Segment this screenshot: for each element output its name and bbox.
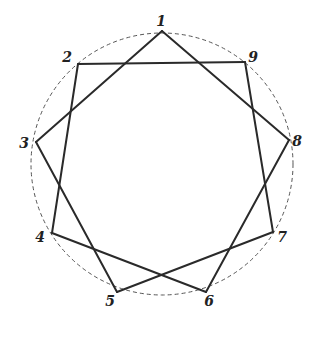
vertex-label-2: 2 <box>61 49 72 65</box>
edge-3-5 <box>36 142 117 292</box>
vertex-label-5: 5 <box>105 293 115 309</box>
vertex-label-9: 9 <box>248 49 258 65</box>
star-polygon-diagram: 123456789 <box>0 0 327 338</box>
vertex-label-6: 6 <box>204 293 214 309</box>
vertex-label-1: 1 <box>156 13 166 29</box>
edge-8-1 <box>162 31 289 140</box>
vertex-label-4: 4 <box>35 229 45 245</box>
circumscribed-dashed-circle <box>31 33 293 295</box>
vertex-labels: 123456789 <box>19 13 302 309</box>
vertex-label-8: 8 <box>292 133 302 149</box>
edge-7-9 <box>245 62 273 232</box>
star-edges <box>36 31 289 292</box>
vertex-label-3: 3 <box>19 135 29 151</box>
edge-2-4 <box>52 64 78 233</box>
vertex-label-7: 7 <box>277 229 287 245</box>
edge-9-2 <box>78 62 245 64</box>
edge-1-3 <box>36 31 162 142</box>
edge-4-6 <box>52 233 206 292</box>
edge-5-7 <box>117 232 273 292</box>
edge-6-8 <box>206 140 289 292</box>
